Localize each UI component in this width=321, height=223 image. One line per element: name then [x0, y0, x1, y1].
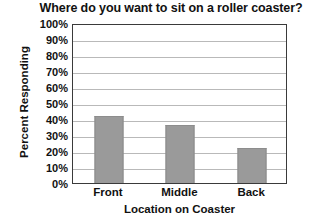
- y-axis-tick-label: 10%: [24, 163, 68, 174]
- bar-back[interactable]: [238, 148, 267, 183]
- bar-middle[interactable]: [166, 125, 195, 183]
- chart-title: Where do you want to sit on a roller coa…: [24, 1, 318, 15]
- bar-slot: [216, 25, 288, 183]
- y-axis-tick-labels: 100%90%80%70%60%50%40%30%20%10%0%: [24, 18, 68, 190]
- bars-group: [73, 25, 286, 183]
- y-axis-tick-label: 40%: [24, 115, 68, 126]
- y-axis-tick-label: 30%: [24, 131, 68, 142]
- x-axis-tick-label: Front: [72, 186, 144, 198]
- y-axis-tick-label: 90%: [24, 35, 68, 46]
- bar-slot: [73, 25, 145, 183]
- y-axis-tick-label: 20%: [24, 147, 68, 158]
- y-axis-tick-label: 100%: [24, 19, 68, 30]
- bar-slot: [145, 25, 217, 183]
- x-axis-tick-labels: FrontMiddleBack: [72, 186, 287, 204]
- x-axis-title: Location on Coaster: [72, 203, 287, 215]
- y-axis-tick-label: 80%: [24, 51, 68, 62]
- x-axis-tick-label: Middle: [144, 186, 216, 198]
- bar-front[interactable]: [94, 116, 123, 183]
- y-axis-tick-label: 50%: [24, 99, 68, 110]
- bar-chart: Where do you want to sit on a roller coa…: [0, 0, 321, 223]
- y-axis-tick-label: 70%: [24, 67, 68, 78]
- y-axis-tick-label: 60%: [24, 83, 68, 94]
- plot-area: [72, 24, 287, 184]
- x-axis-tick-label: Back: [215, 186, 287, 198]
- y-axis-tick-label: 0%: [24, 179, 68, 190]
